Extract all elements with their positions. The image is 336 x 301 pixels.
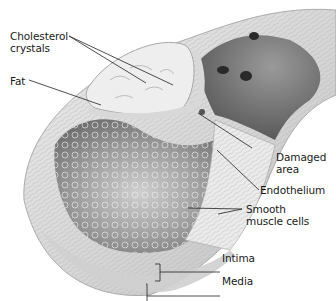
label-text: area xyxy=(276,163,326,175)
label-text: Endothelium xyxy=(260,184,325,196)
label-text: Media xyxy=(222,275,253,287)
label-cholesterol-crystals: Cholesterol crystals xyxy=(10,30,68,54)
label-text: Fat xyxy=(10,75,25,87)
label-endothelium: Endothelium xyxy=(260,184,325,196)
label-smooth-muscle-cells: Smooth muscle cells xyxy=(246,203,309,227)
label-text: Cholesterol xyxy=(10,30,68,42)
label-text: Intima xyxy=(222,252,255,264)
label-text: Damaged xyxy=(276,151,326,163)
label-media: Media xyxy=(222,275,253,287)
label-damaged-area: Damaged area xyxy=(276,151,326,175)
plaque xyxy=(86,42,194,114)
label-text: Smooth xyxy=(246,203,309,215)
label-intima: Intima xyxy=(222,252,255,264)
label-text: crystals xyxy=(10,42,68,54)
label-text: muscle cells xyxy=(246,215,309,227)
artery-diagram: Cholesterol crystals Fat Damaged area En… xyxy=(0,0,336,301)
label-fat: Fat xyxy=(10,75,25,87)
